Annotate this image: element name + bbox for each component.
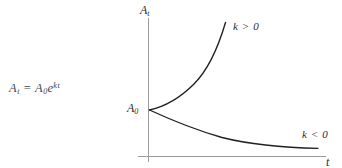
x-axis-line — [138, 156, 326, 157]
growth-curve-label: k > 0 — [233, 20, 259, 32]
y-intercept-label: A0 — [127, 101, 138, 116]
plot-area: At A0 t k > 0 k < 0 — [0, 0, 342, 168]
curve-layer — [0, 0, 342, 168]
decay-curve-k-negative — [150, 110, 319, 148]
y-axis-line — [148, 18, 149, 162]
x-axis-label: t — [326, 155, 329, 168]
growth-curve-k-positive — [150, 23, 226, 111]
y-axis-label-subscript: t — [147, 9, 149, 18]
y-intercept-label-subscript: 0 — [134, 107, 138, 116]
y-axis-label: At — [140, 3, 150, 18]
decay-curve-label: k < 0 — [302, 128, 328, 140]
figure-canvas: At=A0ekt At A0 t k > 0 k < 0 — [0, 0, 342, 168]
